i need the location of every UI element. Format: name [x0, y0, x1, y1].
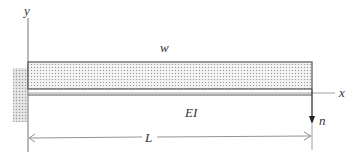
dimension-line-left [30, 137, 142, 138]
arrowhead-icon [309, 116, 315, 124]
beam-diagram: y w x EI n L [0, 0, 361, 162]
dimension-line-right [157, 136, 310, 137]
y-axis-label: y [22, 3, 30, 18]
load-label: w [160, 40, 169, 55]
fixed-wall-support [13, 68, 28, 122]
tip-load-label: n [319, 113, 326, 128]
distributed-load-block [28, 62, 312, 89]
x-axis-label: x [338, 85, 345, 100]
stiffness-label: EI [184, 105, 198, 120]
length-label: L [144, 130, 152, 145]
